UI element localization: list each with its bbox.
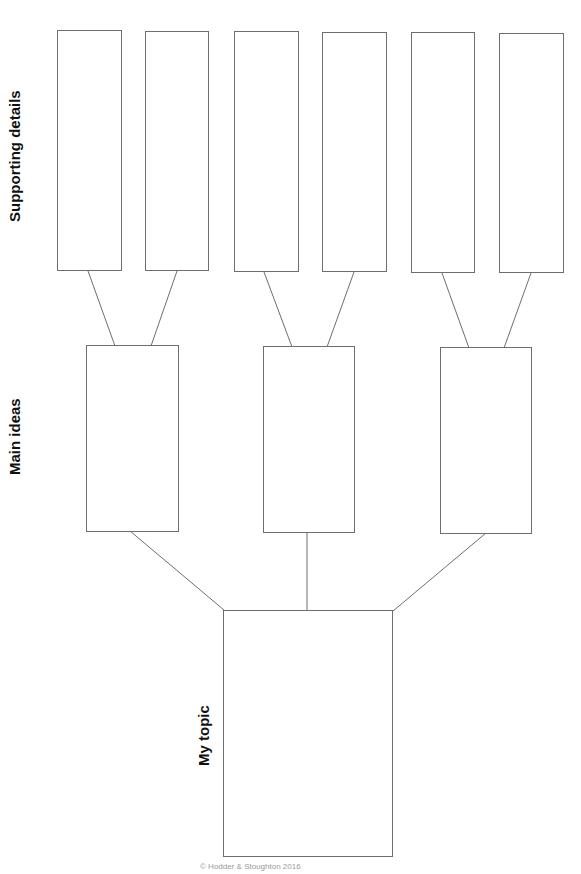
supporting-detail-box-3[interactable] [234,31,299,272]
connector-main1-detail1 [88,271,115,346]
my-topic-box[interactable] [223,610,393,857]
main-ideas-label: Main ideas [6,398,23,475]
connector-main3-detail5 [442,273,469,348]
copyright-footer: © Hodder & Stoughton 2016 [200,862,301,871]
supporting-detail-box-4[interactable] [322,32,387,272]
connector-main2-detail3 [264,272,292,347]
main-idea-box-2[interactable] [263,346,355,533]
connector-topic-main1 [130,531,224,610]
supporting-detail-box-2[interactable] [145,31,209,271]
connector-main3-detail6 [504,273,531,348]
supporting-detail-box-6[interactable] [499,33,564,273]
main-idea-box-1[interactable] [86,345,179,532]
my-topic-label: My topic [195,705,212,766]
supporting-details-label: Supporting details [6,90,23,222]
main-idea-box-3[interactable] [440,347,532,534]
connector-main1-detail2 [151,271,177,346]
connector-topic-main3 [393,533,486,611]
supporting-detail-box-1[interactable] [57,30,122,271]
connector-main2-detail4 [327,272,354,347]
supporting-detail-box-5[interactable] [411,32,475,273]
